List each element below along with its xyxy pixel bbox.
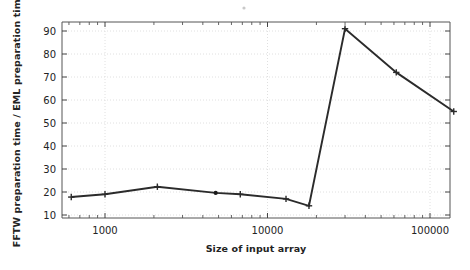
y-axis-title: FFTW preparation time / EML preparation … <box>11 0 22 247</box>
y-tick-label: 50 <box>43 118 56 129</box>
y-tick-label: 20 <box>43 187 56 198</box>
x-tick-label: 1000 <box>92 225 117 236</box>
y-tick-label: 40 <box>43 141 56 152</box>
y-axis-tick-labels: 908070605040302010 <box>43 26 56 221</box>
y-tick-label: 80 <box>43 49 56 60</box>
y-tick-label: 90 <box>43 26 56 37</box>
y-tick-label: 60 <box>43 95 56 106</box>
y-tick-label: 10 <box>43 210 56 221</box>
x-tick-label: 10000 <box>252 225 284 236</box>
y-tick-label: 70 <box>43 72 56 83</box>
data-point-marker <box>214 191 218 195</box>
scan-speck <box>242 6 245 9</box>
y-tick-label: 30 <box>43 164 56 175</box>
x-tick-label: 100000 <box>411 225 449 236</box>
line-chart: 908070605040302010 100010000100000 Size … <box>0 0 470 270</box>
x-axis-title: Size of input array <box>206 243 307 254</box>
chart-background <box>0 0 470 270</box>
